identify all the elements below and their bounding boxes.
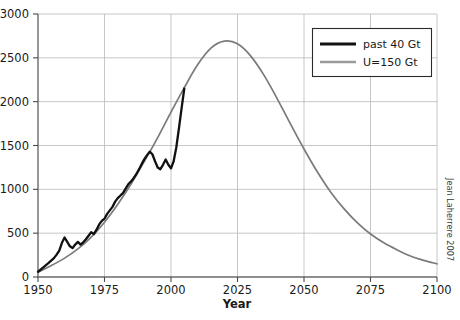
tick-label-y: 1500 [0, 139, 29, 153]
tick-label-y: 500 [7, 226, 29, 240]
tick-label-y: 2000 [0, 95, 29, 109]
tick-label-x: 2000 [156, 283, 185, 297]
credit-label: Jean Laherrere 2007 [445, 177, 455, 261]
chart-container: 050010001500200025003000 195019752000202… [0, 0, 460, 320]
tick-label-y: 1000 [0, 182, 29, 196]
x-axis-tick-labels: 1950197520002025205020752100 [23, 283, 451, 297]
tick-label-x: 2025 [223, 283, 252, 297]
tick-label-x: 2100 [422, 283, 451, 297]
x-axis-title: Year [222, 297, 252, 311]
legend-label-past-40gt: past 40 Gt [363, 38, 421, 51]
tick-label-y: 0 [22, 270, 29, 284]
tick-label-y: 2500 [0, 51, 29, 65]
chart-plot-svg: 050010001500200025003000 195019752000202… [0, 0, 460, 320]
tick-label-x: 2050 [289, 283, 318, 297]
tick-label-x: 1950 [23, 283, 52, 297]
y-axis-ticks [33, 14, 38, 277]
legend: past 40 Gt U=150 Gt [313, 29, 432, 77]
y-axis-tick-labels: 050010001500200025003000 [0, 7, 29, 284]
tick-label-x: 1975 [90, 283, 119, 297]
legend-box [313, 29, 432, 77]
tick-label-x: 2075 [356, 283, 385, 297]
tick-label-y: 3000 [0, 7, 29, 21]
legend-label-u150: U=150 Gt [363, 56, 418, 69]
x-axis-ticks [38, 277, 437, 282]
